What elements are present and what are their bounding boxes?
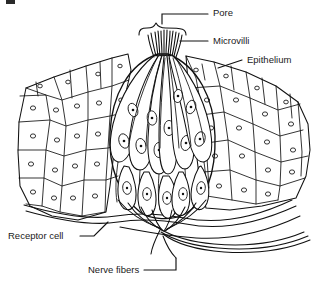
label-pore: Pore	[213, 7, 233, 18]
scan-corner-mark	[6, 0, 15, 4]
label-receptor-cell: Receptor cell	[8, 230, 63, 241]
label-nerve-fibers: Nerve fibers	[88, 264, 139, 275]
taste-bud-diagram: Pore Microvilli Epithelium Receptor cell…	[0, 0, 321, 285]
label-microvilli: Microvilli	[213, 35, 249, 46]
label-epithelium: Epithelium	[247, 54, 291, 65]
taste-bud-figure: Pore Microvilli Epithelium Receptor cell…	[0, 0, 321, 285]
